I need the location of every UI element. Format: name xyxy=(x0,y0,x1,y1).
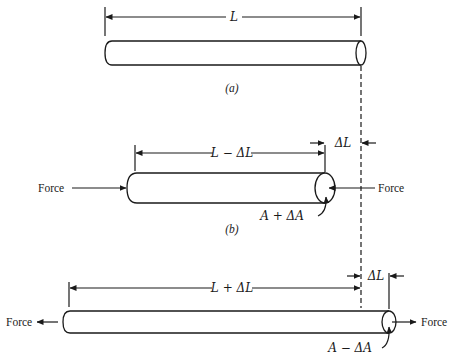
rod-end-face xyxy=(356,41,366,65)
force-label-left: Force xyxy=(6,316,32,328)
length-label: L + ΔL xyxy=(210,281,253,295)
length-label: L xyxy=(229,10,238,24)
force-label-right: Force xyxy=(378,182,404,194)
rod-deformation-diagram: L (a) L − ΔL ΔL Force Force A + ΔA (b) xyxy=(0,0,454,361)
panel-caption: (a) xyxy=(225,82,239,95)
rod-body xyxy=(63,311,389,333)
rod-body xyxy=(127,173,325,203)
panel-b: L − ΔL ΔL Force Force A + ΔA (b) xyxy=(38,136,404,236)
length-label: L − ΔL xyxy=(210,146,253,160)
force-label-left: Force xyxy=(38,182,64,194)
area-label: A − ΔA xyxy=(327,341,372,355)
panel-c: L + ΔL ΔL Force Force A − ΔA xyxy=(6,269,447,355)
area-label: A + ΔA xyxy=(259,209,304,223)
delta-length-label: ΔL xyxy=(334,136,352,150)
panel-caption: (b) xyxy=(225,223,239,236)
delta-length-label: ΔL xyxy=(367,269,385,283)
rod-body xyxy=(105,41,361,65)
force-label-right: Force xyxy=(421,316,447,328)
panel-a: L (a) xyxy=(105,7,366,95)
